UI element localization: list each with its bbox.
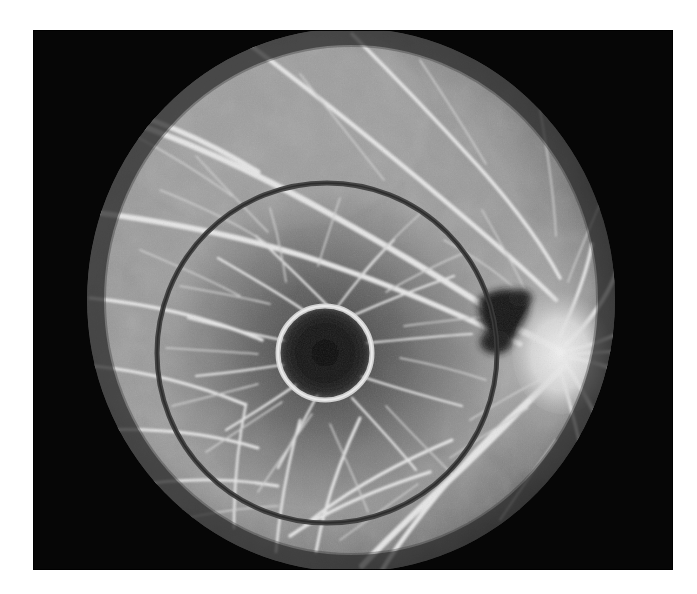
figure-root: Grayscale fundus fluorescein angiogram o… bbox=[0, 0, 697, 594]
margin-bottom bbox=[0, 570, 697, 594]
fundus-photograph bbox=[0, 0, 697, 594]
margin-right bbox=[673, 0, 697, 594]
margin-top bbox=[0, 0, 697, 30]
margin-left bbox=[0, 0, 33, 594]
